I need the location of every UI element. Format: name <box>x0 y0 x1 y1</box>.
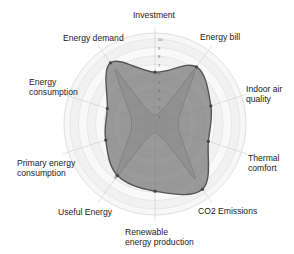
axis-label-co2-emissions: CO2 Emissions <box>198 206 257 216</box>
data-point <box>207 140 210 143</box>
axis-label-indoor-air-quality: Indoor airquality <box>246 84 282 104</box>
data-point <box>153 71 156 74</box>
axis-label-primary-energy-consumption: Primary energyconsumption <box>17 158 75 178</box>
data-point <box>109 61 112 64</box>
data-point <box>116 174 119 177</box>
data-point <box>153 190 156 193</box>
axis-label-energy-bill: Energy bill <box>200 32 240 42</box>
data-point <box>209 104 212 107</box>
axis-label-renewable-energy-production: Renewableenergy production <box>125 227 194 247</box>
axis-label-investment: Investment <box>124 10 184 20</box>
data-point <box>195 65 198 68</box>
data-point <box>106 107 109 110</box>
axis-label-energy-consumption: Energyconsumption <box>29 77 78 97</box>
axis-label-useful-energy: Useful Energy <box>58 207 112 217</box>
data-point <box>104 138 107 141</box>
radial-tick-label: 10 <box>158 37 163 42</box>
axis-label-thermal-comfort: Thermalcomfort <box>248 153 280 173</box>
axis-label-energy-demand: Energy demand <box>63 33 124 43</box>
data-point <box>201 188 204 191</box>
